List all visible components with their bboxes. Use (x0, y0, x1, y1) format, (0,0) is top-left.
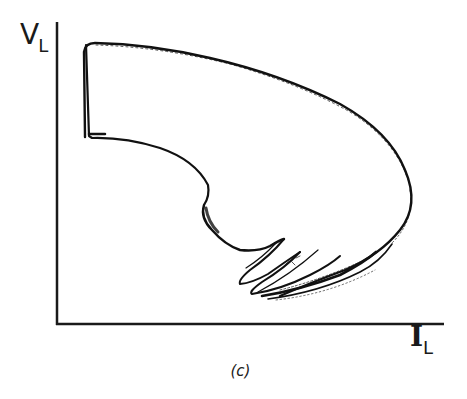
chart-canvas (0, 0, 467, 399)
x-axis-label-subscript: L (423, 337, 433, 358)
x-axis-label: IL (410, 320, 433, 353)
attractor-figure: VL IL (c) (0, 0, 467, 399)
figure-caption: (c) (0, 362, 467, 380)
y-axis-label-main: V (20, 18, 38, 51)
y-axis-label-subscript: L (38, 35, 47, 56)
trajectory (84, 43, 411, 300)
x-axis-label-main: I (410, 320, 423, 353)
y-axis-label: VL (20, 18, 47, 51)
